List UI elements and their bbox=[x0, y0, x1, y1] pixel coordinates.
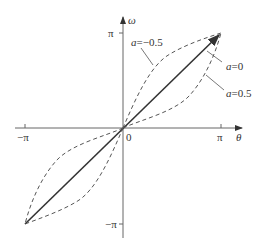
label-a-0.5: a=0.5 bbox=[226, 87, 252, 99]
y-tick-label-neg-pi: −π bbox=[105, 218, 117, 230]
leader-a-0 bbox=[207, 51, 222, 62]
leader-a-neg-0.5 bbox=[141, 48, 153, 65]
y-axis-label: ω bbox=[128, 14, 136, 26]
label-a-neg-0.5: a=−0.5 bbox=[131, 36, 163, 48]
y-tick-label-pi: π bbox=[108, 27, 114, 39]
origin-label: 0 bbox=[126, 131, 132, 143]
label-a-0: a=0 bbox=[226, 60, 244, 72]
leader-a-0.5 bbox=[206, 75, 224, 90]
x-tick-label-pi: π bbox=[217, 131, 223, 143]
x-tick-label-neg-pi: −π bbox=[17, 131, 29, 143]
phase-diagram: −π π π −π 0 θ ω a=−0.5 a=0 a=0.5 bbox=[0, 0, 260, 245]
x-axis-label: θ bbox=[236, 131, 242, 143]
